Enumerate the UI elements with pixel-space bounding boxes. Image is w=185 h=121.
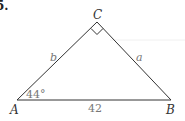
vertex-label-c: C [93,8,102,22]
triangle-diagram: 5. C A B b a 44° 42 [0,0,185,121]
angle-a-measure: 44° [26,88,46,101]
problem-number: 5. [0,0,9,13]
vertex-label-a: A [9,103,19,117]
side-label-c: 42 [88,102,102,115]
side-label-a: a [136,51,143,64]
side-label-b: b [50,51,57,64]
vertex-label-b: B [165,103,175,117]
right-angle-marker [91,29,103,35]
